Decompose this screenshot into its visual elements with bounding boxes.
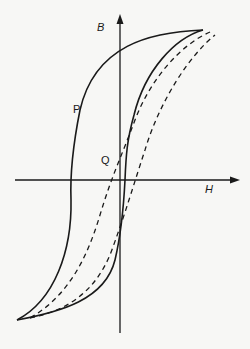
h-axis-label: H: [205, 183, 213, 195]
major-loop: [17, 30, 203, 320]
point-p-label: P: [73, 103, 80, 115]
hysteresis-figure: B H P Q: [0, 0, 250, 349]
h-axis-arrow-icon: [230, 177, 240, 184]
axes: [15, 14, 240, 333]
b-axis-label: B: [97, 21, 104, 33]
point-q-label: Q: [101, 154, 110, 166]
b-axis-arrow-icon: [117, 14, 124, 24]
